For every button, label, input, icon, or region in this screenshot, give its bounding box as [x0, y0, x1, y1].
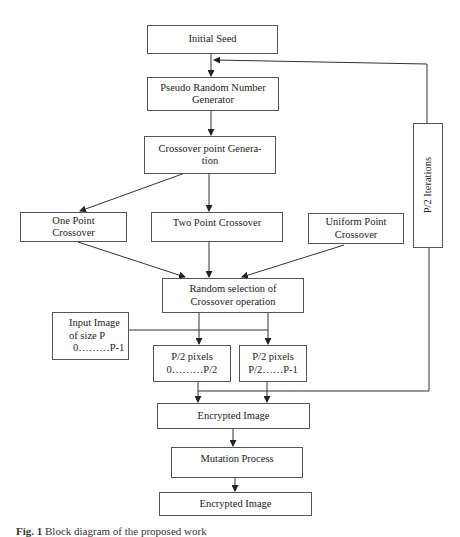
initial-seed-label: Initial Seed: [188, 33, 236, 46]
input-image-label-line3: 0………P-1: [69, 342, 124, 355]
one-point-crossover-box: One Point Crossover: [20, 212, 127, 242]
half-left-box: P/2 pixels 0………P/2: [153, 345, 231, 382]
encrypted-image-box-1: Encrypted Image: [157, 403, 310, 429]
iterations-label: P/2 Iterations: [422, 157, 435, 213]
crossover-point-generation-box: Crossover point Genera- tion: [144, 136, 276, 174]
figure-caption: Fig. 1 Block diagram of the proposed wor…: [16, 525, 207, 537]
one-point-label-line1: One Point: [52, 215, 94, 228]
random-selection-label-line2: Crossover operation: [191, 296, 276, 309]
iterations-box: P/2 Iterations: [413, 123, 443, 248]
mutation-process-box: Mutation Process: [171, 447, 303, 478]
half-right-label-line1: P/2 pixels: [252, 351, 294, 364]
two-point-crossover-box: Two Point Crossover: [151, 212, 283, 242]
half-left-label-line1: P/2 pixels: [171, 351, 213, 364]
random-selection-box: Random selection of Crossover operation: [162, 278, 304, 313]
figure-caption-text: Block diagram of the proposed work: [45, 525, 207, 537]
uniform-point-label-line2: Crossover: [335, 229, 378, 242]
uniform-point-crossover-box: Uniform Point Crossover: [308, 213, 404, 244]
initial-seed-box: Initial Seed: [147, 25, 278, 54]
figure-caption-label: Fig. 1: [16, 525, 42, 537]
prng-label-line1: Pseudo Random Number: [160, 82, 266, 95]
uniform-point-label-line1: Uniform Point: [326, 216, 387, 229]
half-right-label-line2: P/2……P-1: [248, 364, 298, 377]
half-left-label-line2: 0………P/2: [167, 364, 218, 377]
two-point-label: Two Point Crossover: [173, 217, 262, 230]
crossover-gen-label-line1: Crossover point Genera-: [158, 143, 261, 156]
encrypted-image-box-2: Encrypted Image: [159, 492, 312, 516]
mutation-label: Mutation Process: [200, 453, 273, 466]
prng-label-line2: Generator: [192, 94, 234, 107]
encrypted-image-2-label: Encrypted Image: [199, 498, 271, 511]
crossover-gen-label-line2: tion: [202, 155, 218, 168]
input-image-label-line2: of size P: [69, 330, 105, 343]
random-selection-label-line1: Random selection of: [190, 283, 277, 296]
encrypted-image-1-label: Encrypted Image: [197, 410, 269, 423]
one-point-label-line2: Crossover: [52, 227, 95, 240]
input-image-box: Input Image of size P 0………P-1: [52, 312, 129, 360]
input-image-label-line1: Input Image: [69, 317, 120, 330]
prng-box: Pseudo Random Number Generator: [147, 77, 279, 111]
half-right-box: P/2 pixels P/2……P-1: [239, 345, 307, 382]
